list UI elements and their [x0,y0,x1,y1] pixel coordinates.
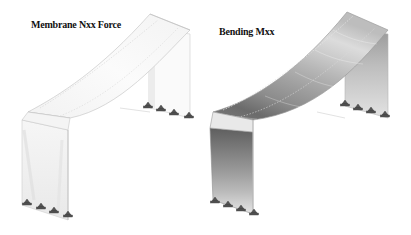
bending-mxx-label: Bending Mxx [219,26,274,37]
membrane-nxx-label: Membrane Nxx Force [31,19,121,30]
bending-mxx-panel: Bending Mxx [205,0,411,235]
membrane-nxx-model [0,0,206,235]
membrane-nxx-panel: Membrane Nxx Force [0,0,206,235]
